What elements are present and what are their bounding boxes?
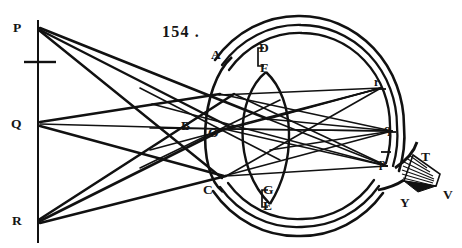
label-point-d: D [259, 41, 269, 55]
label-point-b: B [181, 119, 190, 133]
label-point-f: F [260, 61, 268, 75]
ray-q-refracted-3 [224, 131, 392, 176]
object-line-group [24, 20, 56, 243]
label-point-c: C [203, 183, 213, 197]
label-point-o: O [208, 126, 219, 140]
optics-diagram [0, 0, 462, 248]
ray-p-lower-incident [40, 31, 222, 178]
optic-nerve [378, 142, 440, 192]
label-point-t: T [421, 150, 430, 164]
chord-lower-long [152, 104, 387, 166]
label-point-a: A [211, 48, 221, 62]
label-point-v: V [443, 188, 453, 202]
figure-plate: 154 . P Q R A B C D F O G E r q p T V Y [0, 0, 462, 248]
label-point-e: E [263, 199, 272, 213]
label-point-p: P [13, 21, 21, 35]
label-point-r-image: r [374, 76, 379, 88]
label-point-r: R [12, 214, 22, 228]
figure-number: 154 . [162, 24, 200, 40]
optic-nerve-lower-edge [378, 180, 404, 190]
label-point-q-image: q [384, 123, 391, 135]
label-point-p-image: p [379, 157, 386, 169]
ray-r-upper-incident [40, 94, 234, 219]
label-point-y: Y [400, 196, 410, 210]
ray-q-lower-incident [40, 126, 224, 176]
label-point-g: G [263, 183, 274, 197]
label-point-q: Q [11, 117, 22, 131]
ray-r-mid-incident [40, 129, 224, 221]
